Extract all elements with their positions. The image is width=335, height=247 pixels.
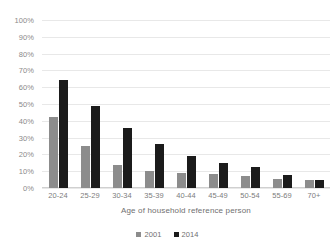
y-axis-tick-label: 50% — [19, 100, 34, 109]
bar — [177, 173, 186, 188]
bar — [49, 117, 58, 188]
x-axis-tick-labels: 20-2425-2930-3435-3940-4445-4950-5455-69… — [42, 191, 330, 200]
x-axis-tick-label: 45-49 — [202, 191, 234, 200]
bar — [273, 179, 282, 188]
bar — [155, 144, 164, 188]
x-axis-tick-label: 25-29 — [74, 191, 106, 200]
x-axis-tick-label: 70+ — [298, 191, 330, 200]
bar-group — [74, 20, 106, 188]
chart-legend: 20012014 — [0, 230, 335, 239]
square-marker-icon — [136, 232, 141, 237]
bar-group — [170, 20, 202, 188]
bar — [123, 128, 132, 188]
y-axis-tick-label: 40% — [19, 116, 34, 125]
bar-group — [106, 20, 138, 188]
bar — [145, 171, 154, 188]
bar — [209, 174, 218, 188]
y-axis-tick-labels: 0%10%20%30%40%50%60%70%80%90%100% — [0, 20, 38, 188]
bar — [113, 165, 122, 188]
y-axis-tick-label: 90% — [19, 32, 34, 41]
bar — [315, 180, 324, 188]
gridline — [42, 188, 330, 189]
bar-group — [298, 20, 330, 188]
bar-group — [234, 20, 266, 188]
legend-label: 2014 — [182, 230, 199, 239]
y-axis-tick-label: 80% — [19, 49, 34, 58]
y-axis-tick-label: 10% — [19, 167, 34, 176]
x-axis-tick-label: 50-54 — [234, 191, 266, 200]
bar — [187, 156, 196, 188]
bar-group — [42, 20, 74, 188]
x-axis-tick-label: 20-24 — [42, 191, 74, 200]
legend-item: 2014 — [174, 230, 199, 239]
x-axis-tick-label: 40-44 — [170, 191, 202, 200]
legend-label: 2001 — [144, 230, 161, 239]
bar — [59, 80, 68, 188]
bar-chart: 0%10%20%30%40%50%60%70%80%90%100% 20-242… — [0, 0, 335, 247]
bar-group — [138, 20, 170, 188]
bar-group — [202, 20, 234, 188]
bar — [81, 146, 90, 188]
bar — [91, 106, 100, 188]
bar — [283, 175, 292, 188]
bar — [219, 163, 228, 188]
x-axis-tick-label: 55-69 — [266, 191, 298, 200]
bar — [305, 180, 314, 188]
bar — [251, 167, 260, 188]
x-axis-tick-label: 35-39 — [138, 191, 170, 200]
bar-group — [266, 20, 298, 188]
plot-area — [42, 20, 330, 188]
y-axis-tick-label: 70% — [19, 66, 34, 75]
y-axis-tick-label: 30% — [19, 133, 34, 142]
y-axis-tick-label: 60% — [19, 83, 34, 92]
y-axis-tick-label: 20% — [19, 150, 34, 159]
y-axis-tick-label: 0% — [23, 184, 34, 193]
bar — [241, 176, 250, 188]
legend-item: 2001 — [136, 230, 161, 239]
y-axis-tick-label: 100% — [14, 16, 34, 25]
square-marker-icon — [174, 232, 179, 237]
bar-groups — [42, 20, 330, 188]
x-axis-title: Age of household reference person — [42, 206, 330, 215]
x-axis-tick-label: 30-34 — [106, 191, 138, 200]
